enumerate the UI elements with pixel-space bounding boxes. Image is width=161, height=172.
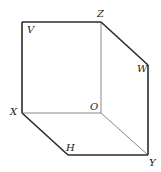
label-h: H bbox=[66, 143, 75, 153]
label-y: Y bbox=[149, 158, 156, 168]
label-z: Z bbox=[97, 9, 104, 19]
label-w: W bbox=[137, 64, 147, 74]
label-x: X bbox=[10, 107, 17, 117]
edge-xh bbox=[22, 113, 68, 155]
edge-oy bbox=[101, 113, 148, 155]
label-o: O bbox=[90, 102, 98, 112]
cube-diagram bbox=[0, 0, 161, 172]
edge-zw bbox=[101, 22, 148, 65]
label-v: V bbox=[27, 25, 34, 35]
